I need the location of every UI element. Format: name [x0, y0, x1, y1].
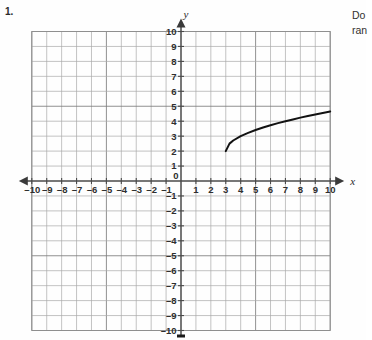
x-tick-label: –8 — [57, 184, 68, 195]
y-tick-label: –6 — [166, 265, 177, 276]
y-axis-bottom-cap — [177, 335, 185, 338]
y-tick-label: 2 — [171, 146, 176, 157]
x-tick-label: –5 — [102, 184, 113, 195]
y-tick-label: 10 — [166, 26, 177, 37]
y-tick-label: 3 — [171, 131, 176, 142]
y-tick-label: –1 — [166, 190, 177, 201]
x-tick-label: 9 — [313, 184, 318, 195]
y-axis-label: y — [183, 8, 189, 20]
x-tick-label: 7 — [283, 184, 288, 195]
x-tick-label: 5 — [253, 184, 259, 195]
x-tick-label: –10 — [24, 184, 40, 195]
y-tick-label: –5 — [166, 250, 177, 261]
y-tick-label: –2 — [166, 205, 177, 216]
axes — [19, 19, 344, 338]
x-axis-arrow-right — [335, 177, 344, 186]
x-tick-label: –9 — [42, 184, 53, 195]
x-tick-label: –3 — [131, 184, 142, 195]
x-tick-label: 2 — [208, 184, 213, 195]
y-axis-arrow-up — [177, 19, 186, 28]
y-tick-label: –9 — [166, 310, 177, 321]
function-curve — [226, 111, 330, 151]
axis-tick-labels: –10–9–8–7–6–5–4–3–2–11234567891012345678… — [24, 8, 355, 336]
x-tick-label: 3 — [223, 184, 228, 195]
y-tick-label: 9 — [171, 41, 176, 52]
x-axis-label: x — [349, 175, 355, 187]
y-tick-label: 5 — [171, 101, 177, 112]
y-tick-label: 4 — [171, 116, 177, 127]
square-root-curve — [226, 111, 330, 151]
y-tick-label: –7 — [166, 280, 177, 291]
x-tick-label: 8 — [298, 184, 303, 195]
y-tick-label: –8 — [166, 295, 177, 306]
x-tick-label: –7 — [72, 184, 83, 195]
y-tick-label: 7 — [171, 71, 176, 82]
x-tick-label: –2 — [146, 184, 157, 195]
y-tick-label: –10 — [161, 325, 177, 336]
origin-label: 0 — [173, 170, 178, 181]
x-tick-label: –6 — [87, 184, 98, 195]
x-tick-label: 10 — [325, 184, 336, 195]
x-tick-label: 6 — [268, 184, 273, 195]
x-tick-label: –4 — [117, 184, 128, 195]
x-tick-label: 4 — [238, 184, 244, 195]
y-tick-label: 8 — [171, 56, 176, 67]
x-tick-label: 1 — [193, 184, 199, 195]
y-tick-label: –3 — [166, 220, 177, 231]
y-tick-label: –4 — [166, 235, 177, 246]
y-tick-label: 6 — [171, 86, 176, 97]
